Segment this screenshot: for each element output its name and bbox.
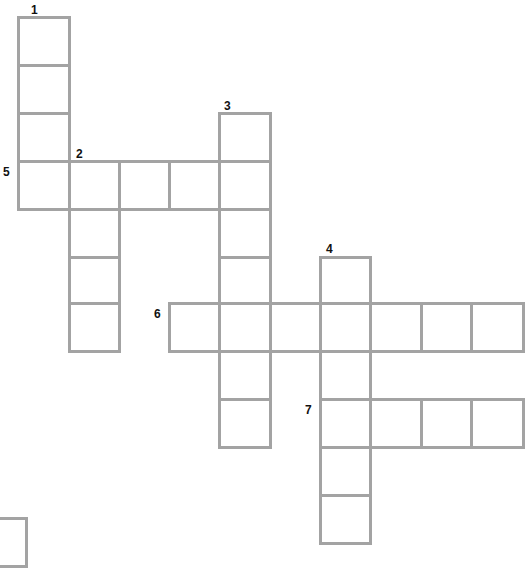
clue-number-1: 1 [31,4,38,16]
clue-number-4: 4 [326,243,333,255]
crossword-cell[interactable] [369,398,423,449]
crossword-cell[interactable] [68,208,121,259]
crossword-cell[interactable] [420,302,473,353]
crossword-cell[interactable] [168,160,221,211]
crossword-cell[interactable] [319,256,372,305]
crossword-cell[interactable] [269,302,322,353]
crossword-cell[interactable] [68,302,121,353]
crossword-cell[interactable] [168,302,221,353]
clue-number-2: 2 [76,148,83,160]
crossword-cell[interactable] [68,256,121,305]
crossword-cell[interactable] [218,350,272,401]
crossword-cell[interactable] [319,398,372,449]
crossword-cell[interactable] [218,112,272,163]
crossword-cell[interactable] [17,112,71,163]
crossword-cell[interactable] [0,517,28,568]
crossword-cell[interactable] [319,302,372,353]
crossword-cell[interactable] [319,350,372,401]
crossword-cell[interactable] [118,160,171,211]
crossword-cell[interactable] [17,160,71,211]
crossword-cell[interactable] [218,208,272,259]
crossword-cell[interactable] [218,398,272,449]
crossword-cell[interactable] [218,160,272,211]
clue-number-5: 5 [3,166,10,178]
crossword-cell[interactable] [218,302,272,353]
crossword-cell[interactable] [68,160,121,211]
crossword-cell[interactable] [319,446,372,497]
crossword-cell[interactable] [218,256,272,305]
crossword-cell[interactable] [17,16,71,67]
crossword-cell[interactable] [17,64,71,115]
crossword-cell[interactable] [369,302,423,353]
crossword-cell[interactable] [319,494,372,545]
crossword-cell[interactable] [420,398,473,449]
clue-number-3: 3 [224,100,231,112]
crossword-cell[interactable] [470,398,525,449]
clue-number-7: 7 [305,404,312,416]
crossword-cell[interactable] [470,302,525,353]
clue-number-6: 6 [154,308,161,320]
